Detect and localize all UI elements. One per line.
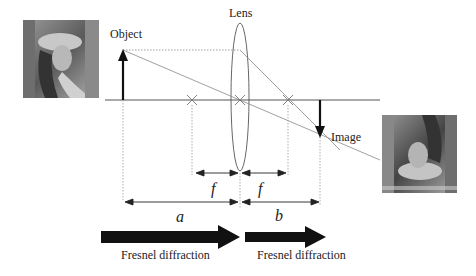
propagation-arrow-left <box>101 225 240 249</box>
image-picture <box>382 115 457 193</box>
guide-lines <box>123 100 320 208</box>
image-label: Image <box>331 130 361 144</box>
object-distance-label: a <box>176 208 184 225</box>
propagation-arrow-right <box>245 226 326 248</box>
object-label: Object <box>110 27 143 41</box>
object-picture <box>23 20 99 98</box>
propagation-right-label: Fresnel diffraction <box>257 248 346 262</box>
lens-imaging-diagram: Lens Object Image f f a b Fresnel diffra… <box>0 0 476 276</box>
focal-length-right-label: f <box>258 180 265 198</box>
dimension-arrows <box>125 170 319 205</box>
image-distance-label: b <box>275 207 283 224</box>
propagation-left-label: Fresnel diffraction <box>121 248 210 262</box>
object-arrow <box>118 49 128 100</box>
propagation-arrows <box>101 225 326 249</box>
image-arrow <box>315 100 325 138</box>
focal-length-left-label: f <box>211 180 218 198</box>
lens-label: Lens <box>229 6 253 20</box>
